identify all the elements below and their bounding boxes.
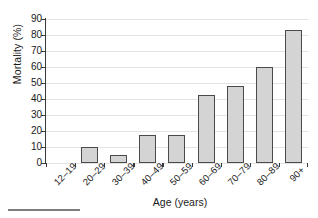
- y-tick-label: 30: [16, 110, 42, 120]
- bar-slot: [133, 19, 162, 163]
- x-label-slot: 40–49: [133, 168, 162, 194]
- y-tick-label: 20: [16, 126, 42, 136]
- x-label-slot: 90+: [279, 168, 308, 194]
- y-tick-mark: [41, 83, 45, 84]
- y-tick-label: 0: [16, 158, 42, 168]
- y-tick-label: 80: [16, 30, 42, 40]
- y-tick-mark: [41, 19, 45, 20]
- x-label-slot: 80–89: [250, 168, 279, 194]
- y-tick-label: 70: [16, 46, 42, 56]
- bar: [227, 86, 244, 163]
- bar: [256, 67, 273, 163]
- y-tick-mark: [41, 99, 45, 100]
- bar: [198, 95, 215, 163]
- x-label-slot: 20–29: [75, 168, 104, 194]
- y-tick-mark: [41, 115, 45, 116]
- y-tick-label: 40: [16, 94, 42, 104]
- x-label-slot: 30–39: [104, 168, 133, 194]
- bar-slot: [104, 19, 133, 163]
- y-tick-mark: [41, 51, 45, 52]
- bar-slot: [46, 19, 75, 163]
- bar: [81, 147, 98, 163]
- bar-slot: [279, 19, 308, 163]
- bar: [139, 135, 156, 163]
- y-tick-label: 90: [16, 14, 42, 24]
- x-tick-label: 90+: [288, 164, 308, 184]
- x-tick-mark: [46, 163, 47, 167]
- x-axis-tick-labels: 12–1920–2930–3940–4950–5960–6970–7980–89…: [46, 168, 308, 194]
- x-axis-title: Age (years): [60, 196, 300, 208]
- x-label-slot: 12–19: [46, 168, 75, 194]
- y-tick-mark: [41, 131, 45, 132]
- bar-slot: [221, 19, 250, 163]
- bar: [168, 135, 185, 163]
- bar-series: [46, 19, 308, 163]
- bar-slot: [192, 19, 221, 163]
- y-tick-mark: [41, 35, 45, 36]
- x-tick-mark: [307, 163, 308, 167]
- x-label-slot: 50–59: [162, 168, 191, 194]
- y-tick-label: 50: [16, 78, 42, 88]
- x-label-slot: 70–79: [221, 168, 250, 194]
- bar-slot: [250, 19, 279, 163]
- footer-divider: [8, 209, 80, 211]
- y-tick-mark: [41, 67, 45, 68]
- y-tick-label: 10: [16, 142, 42, 152]
- bar-slot: [75, 19, 104, 163]
- y-tick-mark: [41, 163, 45, 164]
- bar: [110, 155, 127, 163]
- bar: [285, 30, 302, 163]
- x-label-slot: 60–69: [192, 168, 221, 194]
- y-tick-label: 60: [16, 62, 42, 72]
- bar-chart-figure: Mortality (%) 0102030405060708090 12–192…: [0, 0, 318, 218]
- y-tick-mark: [41, 147, 45, 148]
- bar-slot: [162, 19, 191, 163]
